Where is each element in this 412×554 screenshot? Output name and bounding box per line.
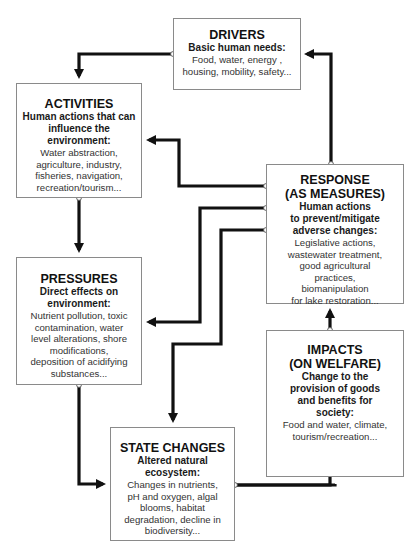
activities-text-1: Water abstraction,	[20, 147, 138, 159]
pressures-subtitle-2: environment:	[20, 298, 138, 310]
state-changes-subtitle-1: Altered natural	[114, 455, 231, 467]
activities-box: ACTIVITIES Human actions that can influe…	[16, 83, 142, 198]
impacts-text-2: tourism/recreation...	[270, 431, 400, 443]
impacts-subtitle-1: Change to the	[270, 371, 400, 383]
state-changes-box: STATE CHANGES Altered natural ecosystem:…	[110, 427, 235, 541]
response-title-1: RESPONSE	[270, 173, 400, 187]
response-text-1: Legislative actions,	[270, 237, 400, 249]
arrow-response-to-pressures	[149, 208, 266, 322]
arrow-response-to-drivers	[307, 54, 331, 164]
response-title-2: (AS MEASURES)	[270, 187, 400, 201]
state-changes-title: STATE CHANGES	[114, 441, 231, 455]
arrow-response-to-state-changes	[173, 230, 266, 420]
impacts-subtitle-2: provision of goods	[270, 383, 400, 395]
pressures-text-4: modifications,	[20, 345, 138, 357]
state-changes-text-4: degradation, decline in	[114, 514, 231, 526]
response-text-5: biomanipulation	[270, 283, 400, 295]
activities-text-4: recreation/tourism...	[20, 182, 138, 194]
response-text-2: wastewater treatment,	[270, 249, 400, 261]
pressures-text-2: contamination, water	[20, 322, 138, 334]
pressures-text-3: level alterations, shore	[20, 333, 138, 345]
impacts-subtitle-3: and benefits for	[270, 395, 400, 407]
drivers-text-2: housing, mobility, safety...	[177, 66, 297, 78]
arrow-response-to-activities	[149, 140, 266, 186]
drivers-box: DRIVERS Basic human needs: Food, water, …	[173, 18, 301, 90]
response-text-6: for lake restoration...	[270, 295, 400, 307]
activities-title: ACTIVITIES	[20, 97, 138, 111]
arrow-pressures-to-state-changes	[79, 385, 103, 484]
response-subtitle-3: adverse changes:	[270, 225, 400, 237]
impacts-subtitle-4: society:	[270, 407, 400, 419]
activities-text-2: agriculture, industry,	[20, 159, 138, 171]
state-changes-subtitle-2: ecosystem:	[114, 467, 231, 479]
arrow-drivers-to-activities	[79, 54, 173, 76]
activities-subtitle-2: influence the	[20, 123, 138, 135]
state-changes-text-1: Changes in nutrients,	[114, 479, 231, 491]
pressures-subtitle-1: Direct effects on	[20, 286, 138, 298]
drivers-text-1: Food, water, energy ,	[177, 54, 297, 66]
state-changes-text-2: pH and oxygen, algal	[114, 491, 231, 503]
response-text-4: practices,	[270, 272, 400, 284]
response-subtitle-1: Human actions	[270, 201, 400, 213]
activities-text-3: fisheries, navigation,	[20, 170, 138, 182]
pressures-title: PRESSURES	[20, 272, 138, 286]
activities-subtitle-1: Human actions that can	[20, 111, 138, 123]
activities-subtitle-3: environment:	[20, 135, 138, 147]
impacts-title-2: (ON WELFARE)	[270, 357, 400, 371]
state-changes-text-5: biodiversity...	[114, 525, 231, 537]
pressures-text-6: substances...	[20, 368, 138, 380]
pressures-text-5: deposition of acidifying	[20, 356, 138, 368]
impacts-box: IMPACTS (ON WELFARE) Change to the provi…	[266, 330, 404, 477]
response-box: RESPONSE (AS MEASURES) Human actions to …	[266, 164, 404, 304]
impacts-text-1: Food and water, climate,	[270, 419, 400, 431]
pressures-box: PRESSURES Direct effects on environment:…	[16, 257, 142, 385]
response-text-3: good agricultural	[270, 260, 400, 272]
response-subtitle-2: to prevent/mitigate	[270, 213, 400, 225]
pressures-text-1: Nutrient pollution, toxic	[20, 310, 138, 322]
drivers-title: DRIVERS	[177, 28, 297, 42]
drivers-subtitle: Basic human needs:	[177, 42, 297, 54]
state-changes-text-3: blooms, habitat	[114, 502, 231, 514]
impacts-title-1: IMPACTS	[270, 343, 400, 357]
